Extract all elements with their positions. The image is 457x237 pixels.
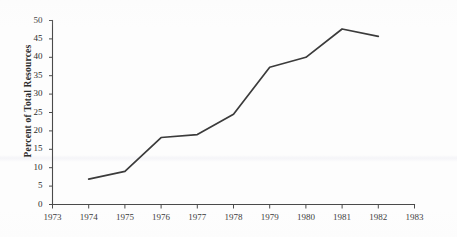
x-axis-tick-label: 1981 <box>322 212 362 222</box>
x-axis-tick-label: 1980 <box>286 212 326 222</box>
y-axis-tick-label: 30 <box>23 88 43 98</box>
y-axis-tick-label: 50 <box>23 15 43 25</box>
data-series-line <box>89 29 379 179</box>
x-axis-ticks <box>53 205 415 209</box>
y-axis-tick-label: 35 <box>23 70 43 80</box>
y-axis-tick-label: 45 <box>23 33 43 43</box>
y-axis-tick-label: 25 <box>23 107 43 117</box>
y-axis-tick-label: 5 <box>23 180 43 190</box>
x-axis-tick-label: 1978 <box>214 212 254 222</box>
chart-figure: Percent of Total Resources 0510152025303… <box>0 0 457 237</box>
x-axis-tick-label: 1975 <box>105 212 145 222</box>
axes-group <box>53 21 415 205</box>
y-axis-tick-label: 40 <box>23 51 43 61</box>
y-axis-tick-label: 15 <box>23 143 43 153</box>
x-axis-tick-label: 1983 <box>395 212 435 222</box>
y-axis-tick-label: 20 <box>23 125 43 135</box>
x-axis-tick-label: 1979 <box>250 212 290 222</box>
y-axis-tick-label: 0 <box>23 199 43 209</box>
x-axis-tick-label: 1976 <box>141 212 181 222</box>
x-axis-tick-label: 1982 <box>358 212 398 222</box>
x-axis-tick-label: 1974 <box>69 212 109 222</box>
x-axis-tick-label: 1977 <box>177 212 217 222</box>
line-plot-canvas <box>0 0 457 237</box>
x-axis-tick-label: 1973 <box>33 212 73 222</box>
y-axis-tick-label: 10 <box>23 162 43 172</box>
